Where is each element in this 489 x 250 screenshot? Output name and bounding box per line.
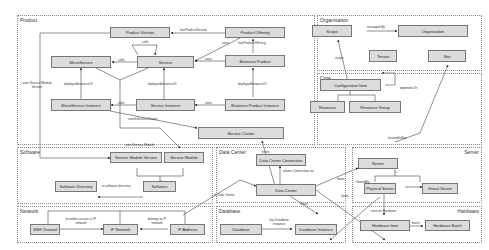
label-hosts-cluster: hosts: [262, 151, 270, 155]
node-product-version[interactable]: Product Version: [110, 27, 170, 38]
label-runs-in-cluster: runsInServiceCluster: [128, 118, 158, 122]
label-has-product-offering: hasProductOffering: [238, 42, 265, 46]
node-business-product-instance[interactable]: Business Product Instance: [225, 99, 285, 111]
node-hardware-item[interactable]: Hardware Item: [360, 220, 410, 231]
label-allows-connection: allows Connection via: [283, 170, 314, 174]
node-organisation[interactable]: Organisation: [398, 25, 468, 37]
package-organisation-title: Organisation: [320, 17, 348, 23]
label-located-in-site: locatedInSite: [388, 137, 406, 141]
label-uses-offering: uses: [222, 42, 229, 46]
package-software-title: Software: [20, 149, 40, 155]
package-product-title: Product: [20, 17, 37, 23]
node-ssh-channel[interactable]: SSH Channel: [30, 224, 60, 235]
node-server[interactable]: Server: [358, 158, 398, 169]
label-hosts-server: hosts: [337, 178, 345, 182]
node-product-offering[interactable]: Product Offering: [225, 27, 285, 38]
package-network-title: Network: [20, 208, 38, 214]
node-microservice-instance[interactable]: MicroService Instance: [51, 99, 111, 111]
label-deployed-service: deployedInstanceOf: [148, 83, 176, 87]
node-service-instance[interactable]: Service Instance: [136, 99, 195, 111]
label-belongs-to: belongs to IP network: [145, 218, 169, 225]
package-server-title: Server: [464, 149, 479, 155]
node-ip-network[interactable]: IP Network: [103, 224, 138, 235]
label-has-db-instance: has Database Instance: [264, 219, 294, 226]
node-service-module-version[interactable]: Service Module Version: [110, 152, 162, 163]
node-data-center[interactable]: Data Center: [256, 184, 316, 196]
label-deployed-business: deployedInstanceOf: [238, 83, 266, 87]
node-microservice[interactable]: MicroService: [51, 56, 111, 68]
node-database[interactable]: Database: [220, 224, 262, 235]
label-in-software-directory: in software directory: [102, 185, 131, 189]
label-hosted-by: hostedBy: [356, 181, 369, 185]
node-software[interactable]: Software: [143, 181, 176, 192]
package-server: Server: [352, 147, 482, 203]
node-service[interactable]: Service: [137, 56, 194, 68]
node-ip-address[interactable]: IP Address: [170, 224, 205, 235]
package-database-title: Database: [219, 208, 240, 214]
node-service-module[interactable]: Service Module: [164, 152, 204, 163]
label-calls-self: calls: [142, 41, 148, 45]
node-resource-group[interactable]: Resource Group: [349, 101, 401, 113]
label-uses-sm: uses Service Module: [125, 144, 155, 148]
node-software-directory[interactable]: Software Directory: [55, 181, 97, 192]
label-calls-instance: calls: [118, 102, 124, 106]
node-configuration-item[interactable]: Configuration Item: [320, 79, 381, 91]
node-scope[interactable]: Scope: [312, 25, 352, 37]
label-provides-access: provides access to IP network: [62, 218, 100, 225]
node-virtual-server[interactable]: Virtual Server: [422, 183, 458, 194]
label-runs-on-hardware: runs on Hardware: [371, 210, 396, 214]
label-managed-by: managed By: [367, 26, 385, 30]
node-tenant[interactable]: Tenant: [369, 50, 397, 62]
node-hardware-batch[interactable]: Hardware Batch: [425, 220, 470, 231]
node-site[interactable]: Site: [428, 50, 466, 62]
label-depends-on: depends On: [400, 87, 417, 91]
label-uses-instance: uses: [205, 102, 212, 106]
label-deployed-micro: deployedInstanceOf: [64, 83, 92, 87]
label-uses-business: uses: [205, 58, 212, 62]
package-organisation: Organisation: [317, 15, 482, 71]
label-in-data-center: in Data Center: [214, 194, 235, 198]
package-data-center-title: Data Center: [219, 149, 246, 155]
label-scope: scope: [335, 57, 344, 61]
label-batch: batch: [412, 222, 420, 226]
node-resource[interactable]: Resource: [310, 101, 345, 113]
label-hosts-hw: hosts: [341, 195, 349, 199]
node-business-product[interactable]: Business Product: [225, 55, 285, 67]
label-uses-smv: uses Service Module Version: [22, 82, 52, 89]
package-hardware-title: Hardware: [457, 208, 479, 214]
label-hosts-db: hosts: [300, 203, 308, 207]
node-database-instance[interactable]: Database Instance: [295, 224, 337, 235]
label-calls-micro: calls: [118, 59, 124, 63]
label-has-product-version: hasProductVersion: [180, 29, 207, 33]
node-data-center-connection[interactable]: Data Center Connection: [256, 154, 306, 166]
node-service-cluster[interactable]: Service Cluster: [198, 127, 284, 139]
